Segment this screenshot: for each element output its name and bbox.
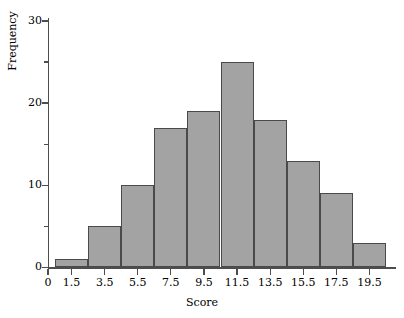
x-tick-label: 5.5	[129, 277, 147, 288]
histogram-figure: 0102030 01.53.55.57.59.511.513.515.517.5…	[0, 0, 404, 318]
y-tick-major	[42, 20, 48, 21]
bars-container	[55, 21, 386, 267]
histogram-bar	[121, 185, 154, 267]
x-tick-label: 15.5	[291, 277, 316, 288]
x-tick-label: 0	[45, 277, 52, 288]
histogram-bar	[287, 161, 320, 268]
histogram-bar	[353, 243, 386, 268]
histogram-bar	[320, 193, 353, 267]
x-tick	[303, 269, 304, 275]
x-tick	[104, 269, 105, 275]
x-tick-label: 19.5	[357, 277, 382, 288]
x-tick-label: 11.5	[225, 277, 250, 288]
x-tick-label: 7.5	[162, 277, 180, 288]
x-axis-line	[48, 267, 396, 268]
y-tick-label: 30	[28, 15, 42, 26]
x-tick-label: 9.5	[195, 277, 213, 288]
x-tick	[236, 269, 237, 275]
x-axis-title: Score	[0, 297, 404, 308]
x-tick	[369, 269, 370, 275]
y-axis-title: Frequency	[4, 0, 22, 170]
x-tick-label: 3.5	[96, 277, 114, 288]
histogram-bar	[154, 128, 187, 268]
y-axis-line	[48, 18, 49, 268]
x-tick	[71, 269, 72, 275]
x-tick	[336, 269, 337, 275]
y-tick-minor	[44, 226, 48, 227]
x-tick	[170, 269, 171, 275]
y-tick-major	[42, 185, 48, 186]
histogram-bar	[221, 62, 254, 267]
histogram-bar	[187, 111, 220, 267]
y-tick-label: 10	[28, 179, 42, 190]
x-tick-label: 1.5	[63, 277, 81, 288]
histogram-bar	[254, 120, 287, 268]
y-tick-major	[42, 102, 48, 103]
x-tick-label: 13.5	[258, 277, 283, 288]
histogram-bar	[88, 226, 121, 267]
histogram-bar	[55, 259, 88, 267]
y-tick-label: 20	[28, 97, 42, 108]
y-tick-label: 0	[35, 261, 42, 272]
x-tick-label: 17.5	[324, 277, 349, 288]
x-tick	[270, 269, 271, 275]
x-tick	[47, 269, 48, 275]
y-tick-minor	[44, 61, 48, 62]
x-tick	[137, 269, 138, 275]
x-tick	[203, 269, 204, 275]
y-tick-minor	[44, 144, 48, 145]
